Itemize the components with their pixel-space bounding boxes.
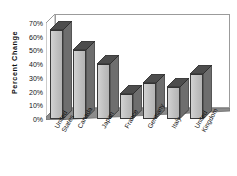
bar-top-face bbox=[120, 85, 142, 94]
bar-top-face bbox=[143, 74, 165, 83]
y-tick-label-40pct: 40% bbox=[29, 61, 43, 68]
bar-united-states bbox=[50, 21, 63, 119]
y-tick-label-10pct: 10% bbox=[29, 102, 43, 109]
y-tick-label-30pct: 30% bbox=[29, 74, 43, 81]
bar-front-face bbox=[50, 30, 63, 119]
y-axis-title: Percent Change bbox=[10, 18, 19, 108]
bar-front-face bbox=[167, 87, 180, 119]
bar-top-face bbox=[50, 21, 72, 30]
y-tick-label-50pct: 50% bbox=[29, 47, 43, 54]
bar-top-face bbox=[97, 55, 119, 64]
bar-top-face bbox=[190, 65, 212, 74]
y-tick-label-20pct: 20% bbox=[29, 88, 43, 95]
bar-side-face bbox=[63, 21, 70, 119]
y-axis-tick-labels: 70%60%50%40%30%20%10%0% bbox=[19, 14, 43, 116]
bar-italy bbox=[167, 78, 180, 119]
x-axis-category-labels: UnitedStatesCanadaJapanFranceGermanyItal… bbox=[46, 126, 236, 176]
percent-change-bar-chart: Percent Change 70%60%50%40%30%20%10%0% U… bbox=[0, 0, 237, 176]
bar-canada bbox=[73, 41, 86, 119]
y-tick-label-70pct: 70% bbox=[29, 20, 43, 27]
y-tick-label-60pct: 60% bbox=[29, 33, 43, 40]
bar-top-face bbox=[167, 78, 189, 87]
y-tick-label-0pct: 0% bbox=[33, 116, 43, 123]
bar-top-face bbox=[73, 41, 95, 50]
